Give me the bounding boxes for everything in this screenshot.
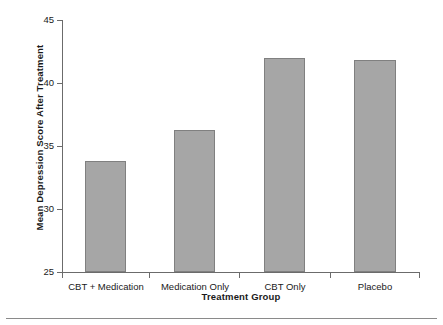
y-axis-line (62, 20, 63, 272)
x-axis-line (62, 272, 420, 273)
y-tick-mark (57, 146, 62, 147)
x-tick-mark-2 (239, 272, 240, 278)
plot-area: 25 30 35 40 45 CBT + Medication (62, 20, 420, 272)
y-tick-label: 25 (43, 267, 54, 277)
bar-medication-only[interactable] (174, 130, 215, 272)
x-axis-title: Treatment Group (62, 291, 420, 302)
bar-placebo[interactable] (354, 60, 396, 272)
bar-cbt-only[interactable] (264, 58, 305, 272)
y-axis-title: Mean Depression Score After Treatment (34, 13, 45, 263)
y-tick-label: 45 (43, 15, 54, 25)
x-tick-mark-3 (330, 272, 331, 278)
y-tick-label: 35 (43, 141, 54, 151)
x-tick-mark-4 (419, 272, 420, 278)
footer-rule (6, 318, 437, 319)
y-tick-label: 40 (43, 78, 54, 88)
y-tick-label: 30 (43, 204, 54, 214)
y-tick-mark (57, 83, 62, 84)
chart-figure: Mean Depression Score After Treatment 25… (0, 0, 443, 325)
y-tick-mark (57, 20, 62, 21)
bar-cbt-plus-medication[interactable] (85, 161, 126, 272)
x-tick-mark-1 (149, 272, 150, 278)
y-tick-mark (57, 209, 62, 210)
x-tick-mark-0 (62, 272, 63, 278)
